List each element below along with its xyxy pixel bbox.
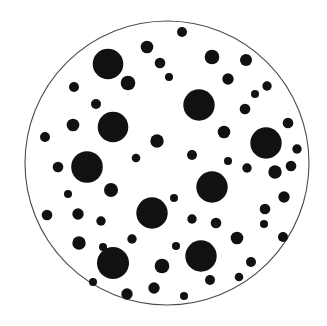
particle-dot xyxy=(121,76,136,91)
particle-dot xyxy=(250,127,281,158)
particle-dot xyxy=(177,27,187,37)
particle-dot xyxy=(155,259,170,274)
particle-dot xyxy=(222,73,233,84)
particle-dot xyxy=(93,49,124,80)
particle-dot xyxy=(72,208,83,219)
particle-dot xyxy=(218,126,231,139)
particle-dot xyxy=(260,220,268,228)
particle-dot xyxy=(235,273,244,282)
particle-dot xyxy=(42,210,53,221)
particle-dot xyxy=(91,99,101,109)
particle-dot xyxy=(121,288,132,299)
particle-dot xyxy=(150,134,163,147)
particle-dot xyxy=(286,161,297,172)
particle-dot xyxy=(67,119,80,132)
particle-dot xyxy=(240,54,252,66)
particle-dot xyxy=(278,232,288,242)
particle-dispersion-chart xyxy=(0,0,327,326)
figure-root xyxy=(0,0,327,326)
particle-dot xyxy=(172,242,180,250)
particle-dot xyxy=(185,240,216,271)
particle-dot xyxy=(187,214,196,223)
particle-dot xyxy=(64,190,72,198)
particle-dot xyxy=(72,236,85,249)
particle-dot xyxy=(71,151,103,183)
particle-dot xyxy=(180,292,188,300)
particle-dot xyxy=(155,58,166,69)
particle-dot xyxy=(132,154,141,163)
particle-dot xyxy=(141,41,154,54)
particle-dot xyxy=(292,144,301,153)
particle-dot xyxy=(251,90,259,98)
particle-dot xyxy=(97,247,129,279)
particle-dot xyxy=(240,104,251,115)
particle-dot xyxy=(96,216,105,225)
particle-dot xyxy=(69,82,79,92)
particle-dot xyxy=(136,197,167,228)
particle-dot xyxy=(268,165,281,178)
particle-dot xyxy=(127,234,136,243)
particle-dot xyxy=(98,112,129,143)
particle-dot xyxy=(224,157,232,165)
particle-dot xyxy=(231,232,244,245)
particle-dot xyxy=(183,89,214,120)
particle-dot xyxy=(196,171,227,202)
particle-dot xyxy=(211,218,222,229)
particle-dot xyxy=(99,243,107,251)
particle-dot xyxy=(278,191,289,202)
particle-dot xyxy=(283,118,294,129)
particle-dot xyxy=(262,81,271,90)
particle-dot xyxy=(205,275,215,285)
particle-dot xyxy=(40,132,50,142)
particle-dot xyxy=(165,73,173,81)
particle-dot xyxy=(242,163,251,172)
particle-dot xyxy=(170,194,178,202)
particle-dot xyxy=(148,282,159,293)
particle-dot xyxy=(246,257,256,267)
particle-dot xyxy=(104,183,118,197)
particle-dot xyxy=(89,278,97,286)
particle-dot xyxy=(205,50,220,65)
particle-dot xyxy=(187,150,197,160)
particle-dot xyxy=(260,204,271,215)
particle-dot xyxy=(53,162,64,173)
